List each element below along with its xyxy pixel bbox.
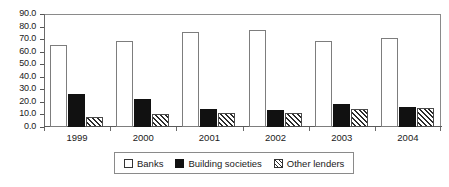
chart-legend: BanksBuilding societiesOther lenders: [114, 152, 354, 174]
x-tick-mark: [176, 127, 177, 131]
x-tick-mark: [440, 127, 441, 131]
x-tick-label-2002: 2002: [243, 132, 309, 143]
y-tick-label: 80.0: [19, 22, 36, 31]
x-tick-mark: [375, 127, 376, 131]
x-axis-labels: 199920002001200220032004: [44, 132, 441, 146]
x-tick-label-2003: 2003: [309, 132, 375, 143]
y-tick-label: 60.0: [19, 47, 36, 56]
bar-other-lenders: [285, 113, 302, 127]
bar-banks: [315, 41, 332, 127]
legend-label: Banks: [137, 158, 163, 169]
legend-item-other-lenders[interactable]: Other lenders: [274, 158, 345, 169]
bar-building-societies: [399, 107, 416, 127]
x-tick-mark: [44, 127, 45, 131]
bar-banks: [381, 38, 398, 127]
bar-banks: [116, 41, 133, 127]
bar-chart: 90.080.070.060.050.040.030.020.010.00.0 …: [0, 0, 449, 187]
y-tick-label: 20.0: [19, 97, 36, 106]
bar-other-lenders: [218, 113, 235, 127]
y-tick-label: 30.0: [19, 84, 36, 93]
x-tick-label-2001: 2001: [176, 132, 242, 143]
y-tick-label: 70.0: [19, 34, 36, 43]
bar-building-societies: [134, 99, 151, 127]
bar-other-lenders: [86, 117, 103, 127]
diagonal-hatch-swatch: [274, 159, 283, 168]
bar-group: [375, 14, 441, 127]
bar-group: [176, 14, 242, 127]
bar-building-societies: [200, 109, 217, 127]
legend-item-building-societies[interactable]: Building societies: [175, 158, 261, 169]
bar-banks: [50, 45, 67, 127]
legend-item-banks[interactable]: Banks: [124, 158, 163, 169]
bar-building-societies: [333, 104, 350, 127]
y-tick-label: 40.0: [19, 72, 36, 81]
x-tick-mark: [309, 127, 310, 131]
bar-banks: [182, 32, 199, 127]
y-axis: 90.080.070.060.050.040.030.020.010.00.0: [0, 0, 40, 140]
bar-group: [44, 14, 110, 127]
y-tick-label: 10.0: [19, 109, 36, 118]
bar-group: [309, 14, 375, 127]
y-tick-label: 0.0: [24, 122, 36, 131]
bar-banks: [249, 30, 266, 127]
bar-other-lenders: [351, 109, 368, 127]
white-outline-swatch: [124, 159, 133, 168]
x-tick-mark: [243, 127, 244, 131]
x-tick-label-1999: 1999: [44, 132, 110, 143]
legend-label: Other lenders: [287, 158, 345, 169]
bar-other-lenders: [152, 114, 169, 127]
bar-building-societies: [267, 110, 284, 127]
x-tick-label-2000: 2000: [110, 132, 176, 143]
x-tick-label-2004: 2004: [375, 132, 441, 143]
bar-building-societies: [68, 94, 85, 127]
y-tick-label: 90.0: [19, 9, 36, 18]
legend-label: Building societies: [188, 158, 261, 169]
bar-group: [243, 14, 309, 127]
solid-black-swatch: [175, 159, 184, 168]
bar-group: [110, 14, 176, 127]
x-tick-mark: [110, 127, 111, 131]
x-axis-ticks: [44, 127, 441, 131]
bar-other-lenders: [417, 108, 434, 127]
bars-layer: [44, 14, 441, 127]
y-tick-label: 50.0: [19, 59, 36, 68]
